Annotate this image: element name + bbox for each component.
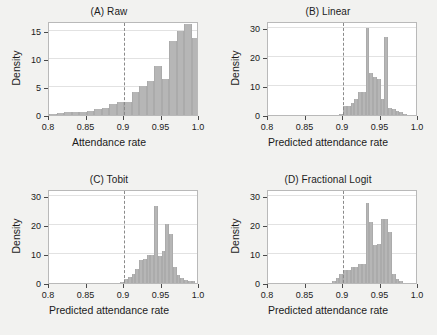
panel-title: (D) Fractional Logit [219,174,437,185]
y-axis-tick-label: 30 [250,192,260,202]
y-axis-tick-label: 15 [31,27,41,37]
y-axis-label: Density [229,40,241,96]
figure-canvas: (A) Raw0510150.80.850.90.951.0Attendance… [0,0,437,335]
x-axis-tick-label: 1.0 [192,290,205,300]
y-axis-tick [44,88,48,89]
x-axis-tick-label: 0.9 [117,122,130,132]
histogram-bar [124,102,132,115]
panel-c: (C) Tobit01020300.80.850.90.951.0Predict… [0,168,218,335]
histogram-bars [49,191,197,283]
y-axis-tick [263,255,267,256]
histogram-bars [49,23,197,115]
reference-line [343,191,344,283]
y-axis-tick [44,60,48,61]
plot-area [267,22,417,116]
y-axis-tick-label: 20 [31,221,41,231]
y-axis-tick [263,226,267,227]
y-axis-label: Density [229,208,241,264]
y-axis-tick-label: 10 [250,250,260,260]
plot-area [267,190,417,284]
y-axis-tick-label: 0 [255,111,260,121]
reference-line [124,23,125,115]
histogram-bar [57,113,65,115]
x-axis-tick-label: 0.9 [336,290,349,300]
x-axis-tick-label: 0.85 [77,122,95,132]
histogram-bar [169,41,177,115]
y-axis-tick-label: 0 [36,279,41,289]
y-axis-tick [263,29,267,30]
histogram-bar [184,24,192,115]
x-axis-tick-label: 0.9 [336,122,349,132]
x-axis-tick [48,284,49,288]
x-axis-tick [86,116,87,120]
x-axis-tick [123,284,124,288]
y-axis-tick [263,87,267,88]
histogram-bar [162,79,170,115]
x-axis-label: Attendance rate [0,136,218,148]
x-axis-tick [342,284,343,288]
y-axis-tick [44,197,48,198]
x-axis-tick-label: 0.8 [261,290,274,300]
x-axis-tick [198,116,199,120]
histogram-bar [72,112,80,115]
x-axis-tick [305,116,306,120]
y-axis-tick [263,58,267,59]
histogram-bar [177,31,185,115]
x-axis-tick [417,116,418,120]
x-axis-tick [267,116,268,120]
x-axis-tick [380,284,381,288]
panel-title: (A) Raw [0,6,218,17]
y-axis-tick [263,197,267,198]
y-axis-tick-label: 30 [31,192,41,202]
x-axis-tick [267,284,268,288]
histogram-bar [147,81,155,115]
histogram-bar [87,111,95,115]
histogram-bar [109,104,117,115]
y-axis-tick-label: 0 [255,279,260,289]
y-axis-label: Density [10,208,22,264]
histogram-bar [132,92,140,115]
panel-b: (B) Linear01020300.80.850.90.951.0Predic… [219,0,437,167]
histogram-bar [403,114,407,115]
x-axis-tick-label: 0.9 [117,290,130,300]
y-axis-tick-label: 30 [250,24,260,34]
y-axis-tick-label: 10 [250,82,260,92]
x-axis-label: Predicted attendance rate [219,304,437,316]
x-axis-tick-label: 0.95 [152,122,170,132]
x-axis-tick-label: 0.8 [42,122,55,132]
histogram-bar [117,102,125,115]
y-axis-tick-label: 5 [36,83,41,93]
x-axis-tick-label: 0.85 [296,290,314,300]
x-axis-tick-label: 0.85 [77,290,95,300]
y-axis-label: Density [10,40,22,96]
plot-area [48,22,198,116]
x-axis-label: Predicted attendance rate [219,136,437,148]
x-axis-tick-label: 1.0 [411,290,424,300]
y-axis-tick [44,255,48,256]
histogram-bar [192,281,196,283]
histogram-bar [49,114,57,115]
histogram-bar [154,66,162,115]
x-axis-tick [161,284,162,288]
y-axis-tick-label: 10 [31,55,41,65]
x-axis-tick-label: 1.0 [192,122,205,132]
x-axis-tick [48,116,49,120]
panel-a: (A) Raw0510150.80.850.90.951.0Attendance… [0,0,218,167]
x-axis-tick [86,284,87,288]
x-axis-tick-label: 1.0 [411,122,424,132]
x-axis-tick-label: 0.95 [152,290,170,300]
x-axis-tick-label: 0.8 [261,122,274,132]
x-axis-tick [198,284,199,288]
x-axis-tick-label: 0.8 [42,290,55,300]
panel-title: (B) Linear [219,6,437,17]
histogram-bar [64,112,72,115]
x-axis-tick-label: 0.95 [371,122,389,132]
histogram-bar [399,281,403,283]
x-axis-label: Predicted attendance rate [0,304,218,316]
reference-line [124,191,125,283]
y-axis-tick-label: 20 [250,53,260,63]
panel-d: (D) Fractional Logit01020300.80.850.90.9… [219,168,437,335]
histogram-bar [94,109,102,115]
histogram-bars [268,23,416,115]
x-axis-tick-label: 0.85 [296,122,314,132]
